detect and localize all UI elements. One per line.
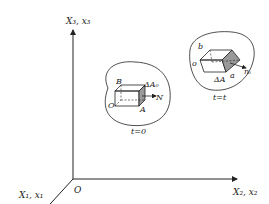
coordinate-axes: X₃, x₃ X₂, x₂ X₁, x₁ O: [18, 16, 258, 204]
corner-A-label: A: [139, 105, 146, 114]
corner-O-label: O: [108, 101, 115, 110]
continuum-deformation-diagram: X₃, x₃ X₂, x₂ X₁, x₁ O B O A ΔA₀ N t=0 b…: [0, 0, 269, 204]
reference-area-label: ΔA₀: [143, 80, 160, 89]
corner-o-label: o: [192, 59, 197, 68]
x2-axis-label: X₂, x₂: [232, 187, 258, 197]
reference-time-label: t=0: [131, 127, 146, 136]
corner-a-label: a: [230, 71, 235, 80]
x1-axis: [41, 179, 73, 204]
corner-b-label: b: [198, 42, 203, 51]
current-area-label: ΔA: [213, 75, 226, 84]
current-configuration: b o a ΔA nᵢ t=t: [190, 32, 255, 102]
reference-normal-label: N: [155, 93, 164, 102]
x3-axis-label: X₃, x₃: [65, 16, 91, 26]
origin-label: O: [74, 185, 82, 195]
reference-box-front: [115, 91, 139, 106]
current-normal-label: nᵢ: [244, 67, 251, 76]
x1-axis-label: X₁, x₁: [18, 190, 43, 200]
corner-B-label: B: [115, 77, 122, 86]
reference-configuration: B O A ΔA₀ N t=0: [105, 62, 170, 136]
current-time-label: t=t: [213, 93, 227, 102]
current-box-area-face: [222, 50, 240, 72]
